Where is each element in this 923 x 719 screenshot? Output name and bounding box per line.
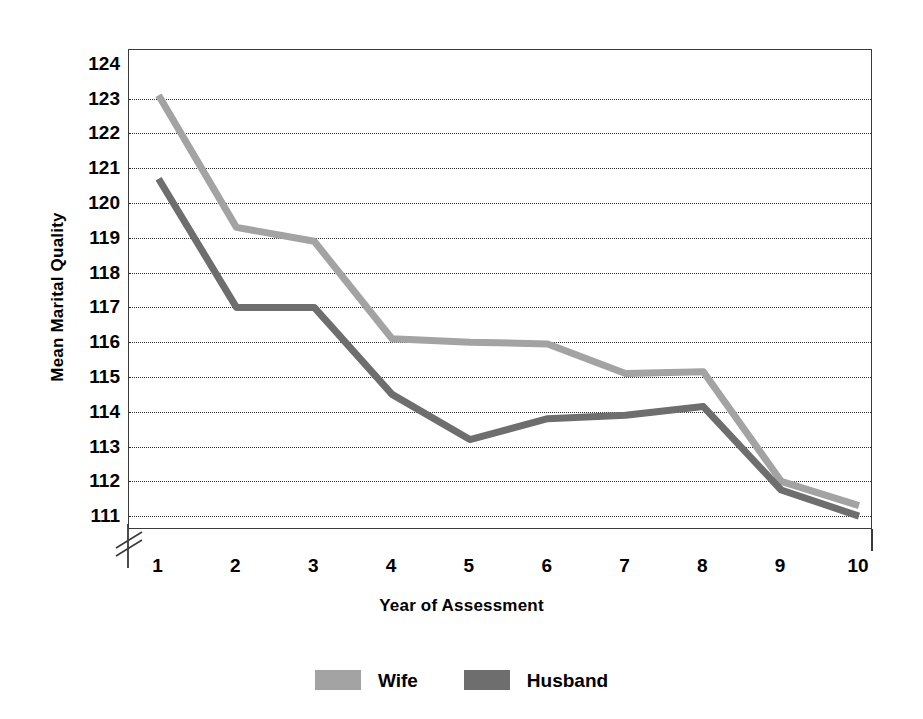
y-axis-tick-label: 121 (58, 158, 120, 177)
y-axis-tick-label: 113 (58, 437, 120, 456)
x-axis-title: Year of Assessment (0, 596, 923, 616)
x-axis-tick-label: 3 (290, 556, 336, 575)
x-axis-tick-label: 1 (135, 556, 181, 575)
y-axis-tick-label: 112 (58, 471, 120, 490)
plot-area (128, 49, 872, 529)
legend-swatch-wife (315, 670, 361, 690)
series-line-wife (159, 95, 859, 505)
y-axis-tick-label: 114 (58, 402, 120, 421)
chart-figure: Mean Marital Quality 1241231221211201191… (0, 0, 923, 719)
x-axis-tick-label: 8 (679, 556, 725, 575)
y-axis-tick-label: 123 (58, 89, 120, 108)
y-axis-tick-label: 124 (58, 54, 120, 73)
legend-item-wife: Wife (315, 670, 418, 690)
series-layer (129, 50, 873, 530)
y-axis-tick-label: 122 (58, 123, 120, 142)
y-axis-tick-label: 111 (58, 506, 120, 525)
x-axis-tick-label: 4 (368, 556, 414, 575)
legend-swatch-husband (464, 670, 510, 690)
y-axis-tick-label: 118 (58, 263, 120, 282)
legend-label: Wife (378, 671, 418, 690)
y-axis-tick-label: 117 (58, 297, 120, 316)
legend-label: Husband (527, 671, 608, 690)
y-axis-tick-label: 120 (58, 193, 120, 212)
x-axis-tick-label: 6 (524, 556, 570, 575)
x-axis-tick-label: 9 (757, 556, 803, 575)
y-axis-tick-label: 115 (58, 367, 120, 386)
x-axis-tick-label: 5 (446, 556, 492, 575)
x-axis-tick-label: 7 (602, 556, 648, 575)
y-axis-tick-label: 119 (58, 228, 120, 247)
x-axis-tick-label: 2 (212, 556, 258, 575)
chart-legend: WifeHusband (0, 663, 923, 697)
y-axis-tick-label: 116 (58, 332, 120, 351)
x-axis-tick-labels: 12345678910 (128, 556, 872, 586)
legend-item-husband: Husband (464, 670, 608, 690)
x-axis-tick-label: 10 (835, 556, 881, 575)
x-axis-tick-mark-10 (871, 529, 873, 551)
